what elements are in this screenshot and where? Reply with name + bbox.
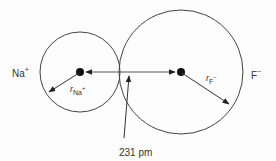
diagram-canvas: Na+ rNa+ F− rF− 231 pm	[0, 0, 276, 161]
f-nucleus-dot	[177, 68, 185, 76]
na-nucleus-dot	[76, 68, 84, 76]
distance-pointer-arrow	[124, 76, 129, 138]
f-ion-label: F−	[251, 68, 261, 81]
ionic-radii-diagram: Na+ rNa+ F− rF− 231 pm	[0, 0, 276, 161]
na-ion-label: Na+	[12, 66, 29, 79]
distance-label: 231 pm	[119, 147, 152, 158]
na-radius-label: rNa+	[70, 84, 86, 96]
f-radius-label: rF−	[206, 73, 217, 85]
